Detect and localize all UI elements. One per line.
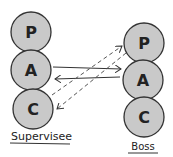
solid-arrow-boss-to-supervisee [55,77,120,79]
boss-adult-letter: A [137,71,150,90]
boss-column: P A C Boss [123,23,164,153]
boss-parent-circle: P [124,23,164,63]
supervisee-underline [10,143,70,144]
boss-child-letter: C [138,108,150,127]
solid-arrow-supervisee-to-boss [53,67,121,69]
supervisee-parent-letter: P [25,23,37,42]
boss-child-circle: C [124,97,164,137]
supervisee-column: P A C Supervisee [10,12,72,144]
boss-adult-circle: A [123,60,163,100]
supervisee-child-letter: C [27,100,39,119]
transaction-arrows [52,46,126,109]
supervisee-child-circle: C [13,89,53,129]
supervisee-label: Supervisee [11,130,72,143]
supervisee-adult-circle: A [11,50,51,90]
pac-transaction-diagram: P A C Supervisee P A C Boss [0,0,173,157]
supervisee-parent-circle: P [11,12,51,52]
dashed-arrow-boss-parent-to-supervisee-child [57,53,126,109]
dashed-arrow-supervisee-to-boss-parent [52,46,122,95]
supervisee-adult-letter: A [25,61,38,80]
boss-label: Boss [131,141,154,152]
boss-parent-letter: P [138,34,150,53]
